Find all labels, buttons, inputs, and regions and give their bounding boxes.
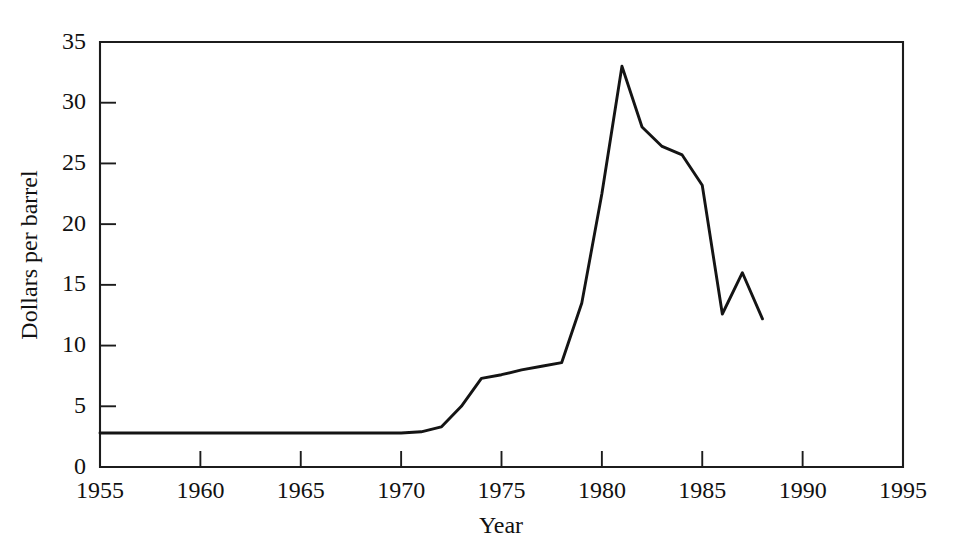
y-axis-tick-labels: 05101520253035 [62,28,86,479]
x-tick-label: 1990 [779,477,827,503]
x-axis-tick-labels: 195519601965197019751980198519901995 [76,477,927,503]
x-tick-label: 1980 [578,477,626,503]
x-tick-label: 1955 [76,477,124,503]
y-tick-label: 30 [62,88,86,114]
y-tick-label: 10 [62,331,86,357]
x-tick-label: 1975 [478,477,526,503]
data-line-crude-oil-price [100,66,762,433]
y-tick-label: 5 [74,392,86,418]
axis-box [100,42,903,467]
y-axis-ticks [100,103,116,407]
y-tick-label: 20 [62,210,86,236]
x-tick-label: 1965 [277,477,325,503]
x-axis-title: Year [479,512,523,538]
y-axis-title: Dollars per barrel [16,170,42,340]
plot-frame [100,42,903,467]
y-tick-label: 15 [62,270,86,296]
y-tick-label: 0 [74,453,86,479]
y-tick-label: 25 [62,149,86,175]
x-tick-label: 1970 [377,477,425,503]
x-tick-label: 1960 [176,477,224,503]
data-series-group [100,66,762,433]
y-tick-label: 35 [62,28,86,54]
chart-figure: 05101520253035 1955196019651970197519801… [0,0,955,554]
line-chart-svg: 05101520253035 1955196019651970197519801… [0,0,955,554]
x-axis-ticks [200,451,802,467]
x-tick-label: 1985 [678,477,726,503]
x-tick-label: 1995 [879,477,927,503]
